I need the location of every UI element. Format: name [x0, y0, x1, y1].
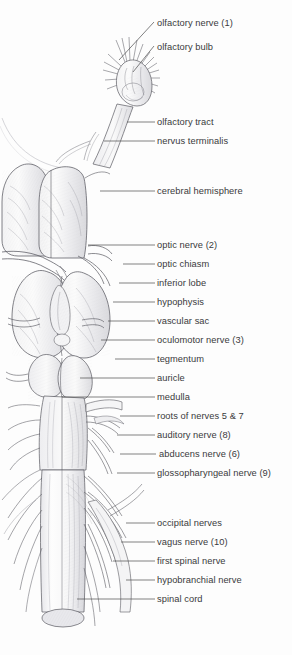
olfactory-bulb-group [103, 37, 160, 106]
anatomical-figure: olfactory nerve (1)olfactory bulbolfacto… [0, 0, 292, 655]
fish-brain-dorsal-anatomical-drawing [0, 0, 292, 655]
label-vascular-sac: vascular sac [157, 316, 209, 327]
label-occipital-nerves: occipital nerves [157, 518, 222, 529]
label-abducens-nerve: abducens nerve (6) [159, 449, 240, 460]
optic-tectum-and-inferior-lobes [8, 271, 110, 359]
olfactory-tract-stalk [56, 104, 133, 168]
label-auditory-nerve: auditory nerve (8) [157, 430, 231, 441]
cerebral-hemispheres [2, 164, 110, 258]
label-oculomotor-nerve: oculomotor nerve (3) [157, 335, 244, 346]
label-optic-chiasm: optic chiasm [157, 259, 209, 270]
label-cerebral-hemisphere: cerebral hemisphere [157, 186, 243, 197]
spinal-cord-and-nerves [2, 470, 144, 627]
label-olfactory-tract: olfactory tract [157, 117, 214, 128]
label-spinal-cord: spinal cord [157, 594, 203, 605]
label-olfactory-nerve: olfactory nerve (1) [157, 18, 233, 29]
label-inferior-lobe: inferior lobe [157, 278, 206, 289]
label-hypobranchial-nerve: hypobranchial nerve [157, 575, 242, 586]
label-vagus-nerve: vagus nerve (10) [157, 537, 228, 548]
cerebellum-and-medulla [6, 354, 92, 472]
label-first-spinal-nerve: first spinal nerve [157, 556, 226, 567]
label-roots-of-nerves-5-and-7: roots of nerves 5 & 7 [157, 411, 244, 422]
label-nervus-terminalis: nervus terminalis [157, 136, 228, 147]
label-glossopharyngeal-nerve: glossopharyngeal nerve (9) [157, 468, 271, 479]
label-tegmentum: tegmentum [157, 354, 204, 365]
label-medulla: medulla [157, 392, 190, 403]
label-optic-nerve: optic nerve (2) [157, 240, 217, 251]
label-auricle: auricle [157, 373, 185, 384]
label-olfactory-bulb: olfactory bulb [157, 42, 213, 53]
label-hypophysis: hypophysis [157, 297, 204, 308]
